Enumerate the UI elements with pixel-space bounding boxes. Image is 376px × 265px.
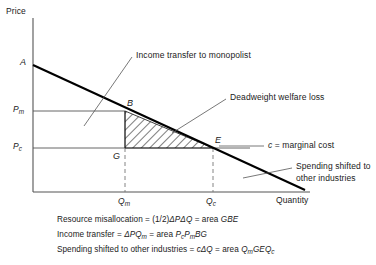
note3-prefix: Spending shifted to other industries = bbox=[57, 245, 197, 254]
quantity-tick-qm: Qm bbox=[118, 196, 130, 206]
note2-area-bg: BG bbox=[195, 230, 207, 239]
annotation-spending-shifted-line2: other industries bbox=[296, 173, 356, 183]
marginal-cost-text: = marginal cost bbox=[272, 140, 334, 150]
note3-area-qm: Q bbox=[241, 245, 247, 254]
note-resource-misallocation: Resource misallocation = (1/2)ΔPΔQ = are… bbox=[57, 215, 238, 224]
y-axis-title: Price bbox=[6, 6, 26, 16]
annotation-spending-shifted-line1: Spending shifted to bbox=[296, 161, 371, 171]
point-label-b: B bbox=[127, 98, 133, 108]
note-spending-shifted: Spending shifted to other industries = c… bbox=[57, 245, 275, 254]
quantity-tick-qc-symbol: Q bbox=[206, 196, 213, 206]
note1-eq: = area bbox=[192, 215, 220, 224]
note2-eq: = area bbox=[147, 230, 175, 239]
note3-eq: = area bbox=[213, 245, 241, 254]
quantity-tick-qc: Qc bbox=[206, 196, 216, 206]
figure-container: Price Quantity A B E G Pm Pc Qm Qc Incom… bbox=[0, 0, 376, 265]
price-tick-pm-symbol: P bbox=[13, 104, 19, 114]
note3-area-qm-subscript: m bbox=[248, 248, 253, 255]
annotation-income-transfer: Income transfer to monopolist bbox=[136, 50, 251, 60]
price-tick-pm: Pm bbox=[13, 104, 24, 114]
note1-expr: ΔPΔQ bbox=[169, 215, 192, 224]
note2-expr-subscript: m bbox=[142, 233, 147, 240]
note2-area-pc-subscript: c bbox=[181, 233, 184, 240]
x-axis-title: Quantity bbox=[276, 195, 308, 205]
note2-expr: ΔPQ bbox=[124, 230, 141, 239]
leader-spending-shifted bbox=[243, 168, 292, 178]
note3-expr: cΔQ bbox=[197, 245, 213, 254]
point-label-g: G bbox=[113, 151, 120, 161]
note2-prefix: Income transfer = bbox=[57, 230, 124, 239]
price-tick-pc: Pc bbox=[13, 141, 22, 151]
note2-area-pm-subscript: m bbox=[190, 233, 195, 240]
economics-diagram-svg bbox=[0, 0, 376, 265]
point-label-e: E bbox=[215, 135, 221, 145]
note-income-transfer: Income transfer = ΔPQm = area PcPmBG bbox=[57, 230, 207, 239]
quantity-tick-qc-subscript: c bbox=[213, 200, 216, 207]
quantity-tick-qm-subscript: m bbox=[125, 200, 130, 207]
annotation-deadweight-loss: Deadweight welfare loss bbox=[230, 92, 324, 102]
price-tick-pc-symbol: P bbox=[13, 141, 19, 151]
quantity-tick-qm-symbol: Q bbox=[118, 196, 125, 206]
price-tick-pc-subscript: c bbox=[19, 145, 22, 152]
note3-area-geq: GEQ bbox=[253, 245, 271, 254]
point-label-a: A bbox=[20, 57, 26, 67]
note1-area: GBE bbox=[221, 215, 238, 224]
note1-prefix: Resource misallocation = (1/2) bbox=[57, 215, 169, 224]
price-tick-pm-subscript: m bbox=[19, 108, 24, 115]
annotation-marginal-cost: c = marginal cost bbox=[268, 140, 334, 150]
note3-area-geq-subscript: c bbox=[271, 248, 274, 255]
leader-deadweight bbox=[172, 99, 226, 133]
note2-area-pm: P bbox=[184, 230, 190, 239]
demand-curve bbox=[33, 65, 305, 190]
